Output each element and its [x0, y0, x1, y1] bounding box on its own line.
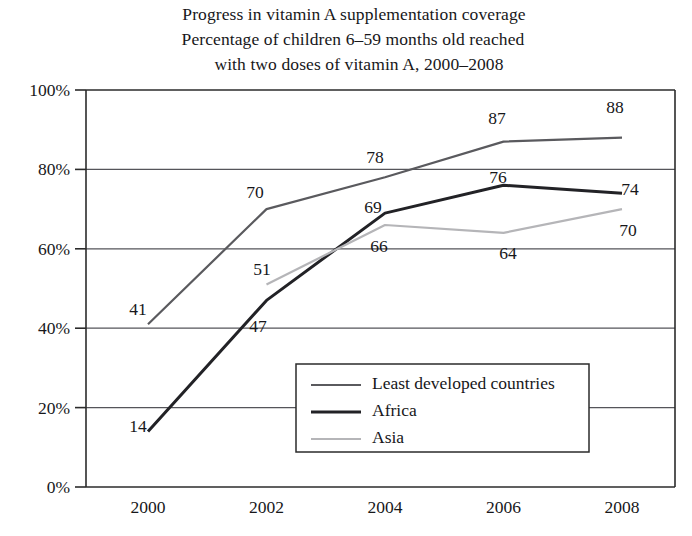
- data-point-label: 88: [606, 97, 624, 117]
- data-point-label: 76: [489, 167, 507, 187]
- data-point-label: 70: [619, 220, 637, 240]
- series-line-least-developed-countries: [148, 138, 622, 325]
- data-point-label: 70: [246, 182, 264, 202]
- data-point-label: 14: [129, 416, 147, 436]
- data-point-label: 47: [249, 316, 267, 336]
- y-tick-label: 100%: [29, 80, 70, 100]
- chart-plot-area: 0%20%40%60%80%100% 20002002200420062008 …: [0, 0, 692, 536]
- series-line-asia: [267, 209, 623, 284]
- x-tick-label: 2008: [605, 497, 640, 517]
- y-tick-label: 20%: [38, 398, 70, 418]
- y-tick-labels: 0%20%40%60%80%100%: [29, 80, 70, 497]
- x-tick-label: 2004: [368, 497, 403, 517]
- y-tick-label: 60%: [38, 239, 70, 259]
- legend-label-1: Africa: [372, 400, 417, 420]
- data-point-label: 69: [364, 197, 382, 217]
- data-point-label: 41: [129, 299, 147, 319]
- y-tick-marks: [75, 90, 86, 487]
- x-tick-label: 2006: [486, 497, 521, 517]
- data-point-label: 87: [488, 108, 506, 128]
- data-point-label: 64: [499, 243, 517, 263]
- chart-legend[interactable]: Least developed countriesAfricaAsia: [296, 364, 589, 452]
- x-tick-label: 2000: [131, 497, 166, 517]
- y-tick-label: 80%: [38, 159, 70, 179]
- data-point-label: 51: [253, 259, 271, 279]
- y-tick-label: 40%: [38, 318, 70, 338]
- chart-figure: Progress in vitamin A supplementation co…: [0, 0, 692, 536]
- x-tick-labels: 20002002200420062008: [131, 497, 640, 517]
- y-tick-label: 0%: [47, 477, 70, 497]
- x-tick-label: 2002: [249, 497, 284, 517]
- legend-label-0: Least developed countries: [372, 373, 555, 393]
- data-point-label: 74: [621, 179, 639, 199]
- data-point-label: 78: [366, 147, 384, 167]
- data-point-label: 66: [370, 236, 388, 256]
- legend-label-2: Asia: [372, 427, 404, 447]
